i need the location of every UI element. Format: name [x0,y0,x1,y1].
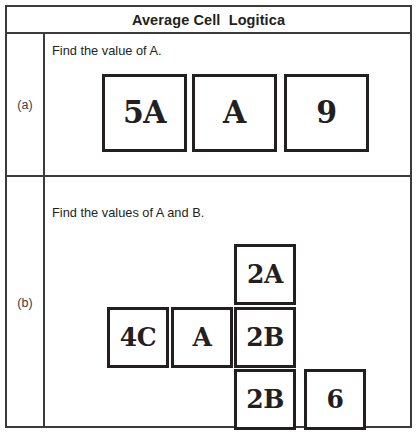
question-label-cell-b: (b) [7,177,45,428]
question-label-a: (a) [17,98,32,112]
cell-box: 5A [102,74,187,152]
cell-box-text: 9 [316,97,336,128]
question-content-a: Find the value of A. 5A A 9 [45,34,410,175]
cell-box-text: 6 [327,387,344,413]
question-row-a: (a) Find the value of A. 5A A 9 [7,34,410,177]
cell-box-text: A [193,325,212,351]
cell-box-text: A [223,97,246,128]
cell-box-text: 2B [246,325,284,351]
question-content-b: Find the values of A and B. 2A 4C A 2B 2… [45,177,410,428]
worksheet-table: Average Cell Logitica (a) Find the value… [5,5,412,428]
cell-box: 4C [107,307,169,368]
cell-box: 2B [234,307,296,368]
cell-box-text: 2B [246,387,284,413]
cell-box-text: 5A [123,97,166,128]
cell-box: A [192,74,277,152]
cell-box-text: 4C [120,325,156,351]
question-prompt-b: Find the values of A and B. [52,205,204,220]
cell-box: 6 [304,369,366,430]
cell-box: 9 [284,74,369,152]
cell-box: 2B [234,369,296,430]
question-row-b: (b) Find the values of A and B. 2A 4C A … [7,177,410,428]
cell-box: 2A [234,244,296,305]
worksheet-header: Average Cell Logitica [7,7,410,34]
cell-box-text: 2A [247,262,283,288]
question-label-b: (b) [17,296,32,310]
page-title: Average Cell Logitica [132,12,285,28]
question-label-cell-a: (a) [7,34,45,175]
cell-box: A [171,307,233,368]
question-prompt-a: Find the value of A. [52,43,162,58]
